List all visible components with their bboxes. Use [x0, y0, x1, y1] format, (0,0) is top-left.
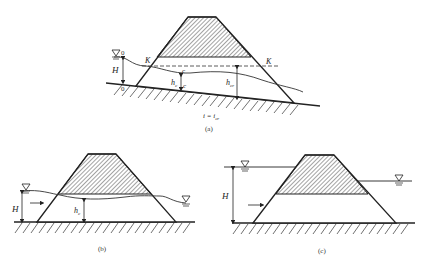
caption-b: (b) — [98, 245, 107, 253]
water-level-icon-c-downstream — [395, 175, 403, 185]
panel-b: H hc (b) — [11, 154, 195, 253]
dam-hatched-zone-a — [157, 17, 251, 57]
ground-hatching-b — [15, 223, 190, 233]
water-level-icon-a — [112, 50, 120, 59]
label-H-b: H — [11, 204, 19, 214]
label-H-c: H — [221, 191, 229, 201]
label-K-right: K — [265, 57, 272, 66]
water-level-icon-c-upstream — [241, 161, 249, 171]
water-level-icon-b-downstream — [182, 196, 190, 206]
panel-c: H (c) — [221, 155, 415, 255]
panel-a: 0 0 H K K c c hc hcr i = icr (a) — [106, 17, 320, 133]
caption-a: (a) — [205, 125, 213, 133]
caption-c: (c) — [318, 247, 326, 255]
dam-hatched-zone-b — [58, 154, 151, 194]
label-bed-0: 0 — [121, 85, 125, 93]
dam-flow-diagram: 0 0 H K K c c hc hcr i = icr (a) — [0, 0, 426, 266]
label-slope: i = icr — [203, 112, 219, 121]
label-H-a: H — [111, 65, 119, 75]
label-upstream-0: 0 — [121, 49, 125, 57]
label-K-left: K — [144, 56, 151, 65]
water-level-icon-b-upstream — [22, 184, 30, 193]
ground-hatching-c — [233, 224, 408, 234]
